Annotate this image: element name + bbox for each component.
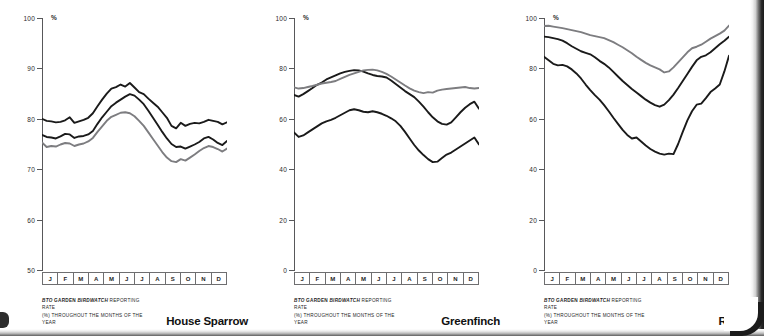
y-axis-label: 100 (24, 15, 35, 22)
month-label-1: F (560, 273, 575, 284)
series-line-upper (42, 83, 227, 128)
month-label-0: J (42, 273, 58, 284)
month-label-1: F (58, 273, 73, 284)
month-label-9: O (181, 273, 196, 284)
month-label-5: J (622, 273, 637, 284)
plot-area: %1009080706050 (42, 18, 227, 270)
data-lines (42, 18, 227, 270)
y-axis-label: 20 (279, 216, 287, 223)
month-label-7: A (652, 273, 667, 284)
y-axis-label: 90 (27, 65, 35, 72)
plot-area: %100806040200 (544, 18, 729, 270)
month-label-2: M (74, 273, 89, 284)
month-label-3: A (591, 273, 606, 284)
y-axis-label: 40 (279, 166, 287, 173)
x-axis-months: JFMAMJJASOND (42, 272, 227, 285)
chart-panel-robin: %100806040200JFMAMJJASONDBTO Garden Bird… (500, 0, 750, 330)
month-label-5: J (372, 273, 387, 284)
plot-area: %100806040200 (294, 18, 479, 270)
caption-row: BTO Garden BirdWatch reporting rate(%) t… (42, 297, 248, 326)
caption-row: BTO Garden BirdWatch reporting rate(%) t… (544, 297, 750, 326)
month-label-6: J (135, 273, 150, 284)
y-axis-label: 80 (279, 65, 287, 72)
series-line-middle (42, 94, 227, 148)
chart-panel-house-sparrow: %1009080706050JFMAMJJASONDBTO Garden Bir… (0, 0, 250, 330)
month-label-10: N (448, 273, 463, 284)
month-label-3: A (341, 273, 356, 284)
page-edge-bottom (0, 329, 764, 336)
y-axis-label: 70 (27, 166, 35, 173)
caption-row: BTO Garden BirdWatch reporting rate(%) t… (294, 297, 500, 326)
month-label-8: S (418, 273, 433, 284)
month-label-4: M (104, 273, 119, 284)
y-axis-label: 100 (276, 15, 287, 22)
month-label-2: M (576, 273, 591, 284)
y-axis-label: 50 (27, 267, 35, 274)
month-label-2: M (326, 273, 341, 284)
chart-caption: BTO Garden BirdWatch reporting rate(%) t… (544, 297, 656, 326)
month-label-7: A (150, 273, 165, 284)
data-lines (544, 18, 729, 270)
y-axis-tick (289, 270, 295, 271)
month-label-11: D (212, 273, 227, 284)
y-axis-label: 20 (529, 216, 537, 223)
series-line-lower-black (294, 109, 479, 162)
chart-panel-greenfinch: %100806040200JFMAMJJASONDBTO Garden Bird… (250, 0, 500, 330)
month-label-1: F (310, 273, 325, 284)
month-label-3: A (89, 273, 104, 284)
y-axis-label: 40 (529, 166, 537, 173)
species-title: Greenfinch (441, 315, 500, 327)
series-line-lower (42, 112, 227, 162)
series-line-middle-black (544, 37, 729, 107)
month-label-4: M (356, 273, 371, 284)
month-label-7: A (402, 273, 417, 284)
month-label-11: D (464, 273, 479, 284)
y-axis-label: 100 (526, 15, 537, 22)
month-label-0: J (294, 273, 310, 284)
page-edge-right (750, 0, 764, 336)
series-line-grey (544, 26, 729, 73)
y-axis-label: 80 (27, 115, 35, 122)
y-axis-label: 60 (529, 115, 537, 122)
x-axis-months: JFMAMJJASOND (544, 272, 729, 285)
month-label-9: O (683, 273, 698, 284)
month-label-11: D (714, 273, 729, 284)
charts-container: %1009080706050JFMAMJJASONDBTO Garden Bir… (0, 0, 750, 330)
data-lines (294, 18, 479, 270)
month-label-4: M (606, 273, 621, 284)
y-axis-tick (37, 270, 43, 271)
month-label-10: N (698, 273, 713, 284)
month-label-6: J (637, 273, 652, 284)
series-line-lower-black (544, 56, 729, 155)
y-axis-label: 60 (27, 216, 35, 223)
chart-caption: BTO Garden BirdWatch reporting rate(%) t… (294, 297, 406, 326)
month-label-5: J (120, 273, 135, 284)
chart-caption: BTO Garden BirdWatch reporting rate(%) t… (42, 297, 154, 326)
month-label-6: J (387, 273, 402, 284)
y-axis-label: 0 (283, 267, 287, 274)
species-title: House Sparrow (166, 315, 248, 327)
x-axis-months: JFMAMJJASOND (294, 272, 479, 285)
page-edge-blot (0, 312, 9, 328)
month-label-9: O (433, 273, 448, 284)
y-axis-label: 60 (279, 115, 287, 122)
y-axis-label: 80 (529, 65, 537, 72)
month-label-0: J (544, 273, 560, 284)
y-axis-tick (539, 270, 545, 271)
month-label-8: S (668, 273, 683, 284)
y-axis-label: 0 (533, 267, 537, 274)
month-label-10: N (196, 273, 211, 284)
month-label-8: S (166, 273, 181, 284)
